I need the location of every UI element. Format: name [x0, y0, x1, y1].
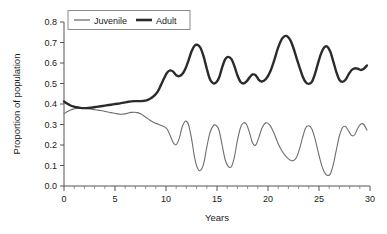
x-tick-label: 25: [314, 194, 324, 204]
x-tick-label: 30: [365, 194, 375, 204]
y-tick-label: 0.5: [44, 79, 57, 89]
x-tick-label: 10: [161, 194, 171, 204]
y-tick-label: 0.4: [44, 99, 57, 109]
legend-label-adult: Adult: [156, 16, 177, 26]
y-tick-label: 0.8: [44, 17, 57, 27]
y-axis-tick-labels: 0.00.10.20.30.40.50.60.70.8: [44, 17, 57, 191]
x-tick-label: 15: [212, 194, 222, 204]
chart-legend: Juvenile Adult: [68, 11, 190, 30]
y-tick-label: 0.3: [44, 120, 57, 130]
y-tick-label: 0.6: [44, 58, 57, 68]
y-tick-label: 0.1: [44, 161, 57, 171]
x-axis-title: Years: [205, 212, 229, 223]
chart-canvas: 0.00.10.20.30.40.50.60.70.8 051015202530…: [0, 0, 387, 234]
legend-label-juvenile: Juvenile: [94, 16, 127, 26]
x-tick-label: 0: [61, 194, 66, 204]
y-tick-label: 0.2: [44, 140, 57, 150]
chart-figure: 0.00.10.20.30.40.50.60.70.8 051015202530…: [0, 0, 387, 234]
y-axis-title: Proportion of population: [11, 54, 22, 155]
x-tick-label: 5: [112, 194, 117, 204]
y-tick-label: 0.7: [44, 38, 57, 48]
y-tick-label: 0.0: [44, 181, 57, 191]
x-tick-label: 20: [263, 194, 273, 204]
chart-background: [0, 0, 387, 234]
